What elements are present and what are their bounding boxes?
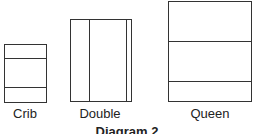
queen-label: Queen [170,106,250,121]
crib-outline [5,45,47,103]
double-label: Double [60,106,140,121]
crib-shape [5,45,47,103]
double-outline [71,20,132,102]
double-shape [71,20,132,102]
crib-label: Crib [0,106,65,121]
queen-shape [169,2,252,102]
diagram-caption: Diagram 2 [67,124,187,134]
queen-outline [169,2,252,102]
